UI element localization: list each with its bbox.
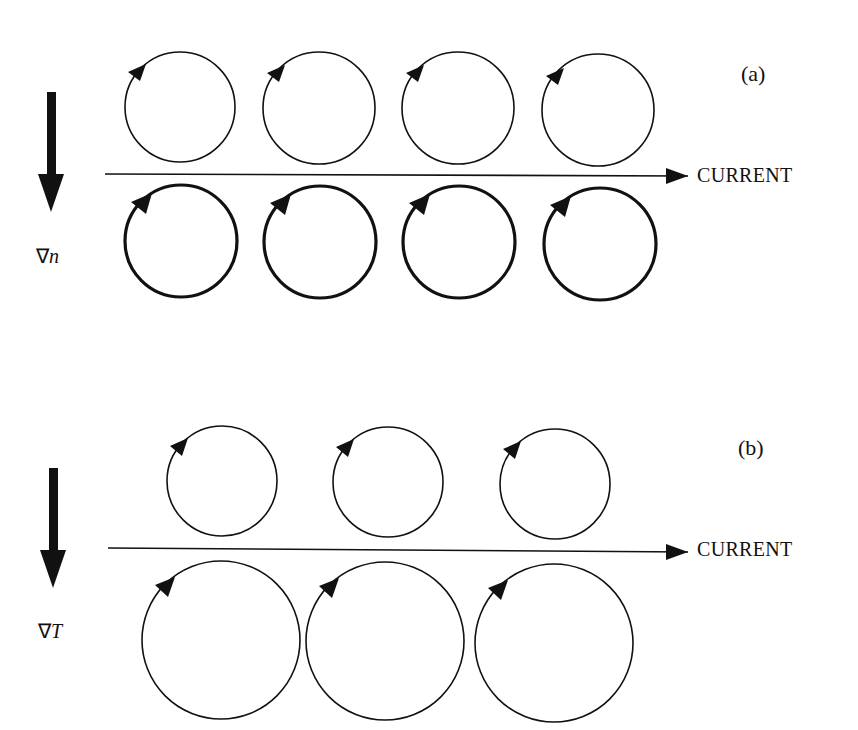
panel-b-top-vortices	[167, 426, 610, 539]
panel-a-current-arrowhead-icon	[666, 168, 688, 184]
panel-a-current-label: CURRENT	[697, 164, 792, 187]
panel-a-gradient-label: ∇n	[36, 244, 59, 268]
diagram-canvas	[0, 0, 858, 730]
panel-b-current-label: CURRENT	[697, 538, 792, 561]
panel-a-label: (a)	[741, 61, 765, 87]
panel-b-bottom-vortex-arrowheads	[155, 577, 508, 600]
nabla-symbol: ∇	[38, 620, 51, 642]
panel-a-bottom-vortices	[125, 185, 656, 300]
panel-b-bottom-vortices	[142, 561, 633, 722]
panel-b-current-arrow	[108, 548, 688, 552]
panel-b-gradient-label: ∇T	[38, 619, 62, 643]
panel-a-top-vortices	[125, 52, 654, 166]
panel-a-top-vortex-arrowheads	[128, 64, 564, 85]
gradient-t-arrow-icon	[40, 468, 66, 588]
panel-a-current-arrow	[105, 174, 688, 176]
panel-b-current-arrowhead-icon	[666, 544, 688, 560]
gradient-variable: T	[51, 620, 62, 642]
panel-b-top-vortex-arrowheads	[170, 438, 521, 459]
panel-b-label: (b)	[738, 435, 764, 461]
gradient-variable: n	[49, 245, 59, 267]
nabla-symbol: ∇	[36, 245, 49, 267]
gradient-n-arrow-icon	[38, 92, 64, 212]
